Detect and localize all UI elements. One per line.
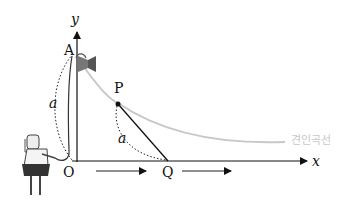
rope: [55, 56, 72, 160]
tractrix-curve: [82, 64, 285, 142]
tractrix-diagram: y x O A P Q a a 견인곡선: [0, 0, 349, 207]
point-a-label: A: [63, 42, 75, 58]
curve-label: 견인곡선: [291, 134, 331, 147]
point-q-label: Q: [162, 164, 173, 180]
person-figure-icon: [22, 135, 55, 195]
origin-label: O: [63, 164, 74, 180]
length-label-oa: a: [49, 95, 57, 111]
point-p: [116, 102, 121, 107]
y-axis-label: y: [70, 11, 80, 27]
length-label-pq: a: [118, 130, 126, 146]
point-p-label: P: [114, 80, 123, 96]
x-axis-label: x: [312, 153, 320, 169]
